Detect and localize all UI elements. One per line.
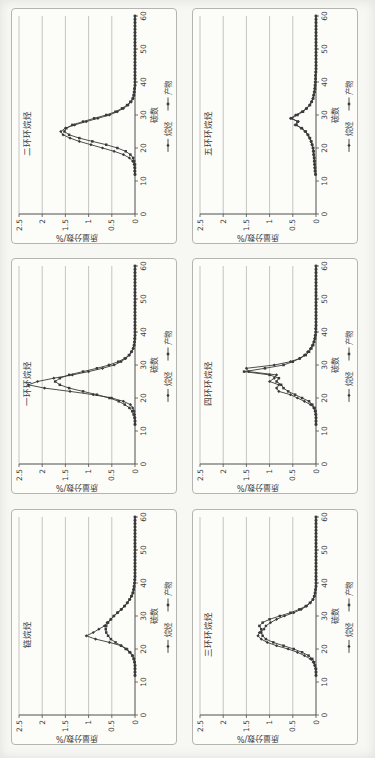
square-marker (313, 595, 316, 598)
square-marker (294, 393, 297, 396)
x-axis-title: 碳数 (149, 357, 159, 373)
square-marker (348, 604, 351, 607)
square-marker (315, 321, 318, 324)
svg-text:1: 1 (265, 219, 274, 224)
gridlines (19, 16, 112, 214)
svg-text:40: 40 (320, 578, 329, 588)
square-marker (310, 347, 313, 350)
svg-text:2.5: 2.5 (15, 469, 24, 481)
axes (19, 16, 138, 217)
square-marker (315, 278, 318, 281)
square-marker (134, 314, 137, 317)
square-marker (312, 598, 315, 601)
square-marker (78, 137, 81, 140)
square-marker (133, 661, 136, 664)
svg-text:20: 20 (320, 644, 329, 654)
square-marker (134, 337, 137, 340)
square-marker (116, 611, 119, 614)
svg-text:0.5: 0.5 (107, 720, 116, 732)
svg-text:40: 40 (320, 327, 329, 337)
square-marker (112, 615, 115, 618)
square-marker (301, 651, 304, 654)
svg-text:10: 10 (139, 176, 148, 186)
square-marker (302, 110, 305, 113)
x-axis-title: 碳数 (330, 357, 340, 373)
square-marker (133, 91, 136, 94)
square-marker (310, 140, 313, 143)
square-marker (133, 344, 136, 347)
square-marker (134, 41, 137, 44)
square-marker (134, 48, 137, 51)
square-marker (315, 539, 318, 542)
y-axis-title: 质量分数/% (55, 734, 98, 744)
square-marker (133, 582, 136, 585)
diamond-marker (166, 645, 169, 648)
square-marker (315, 54, 318, 57)
svg-text:40: 40 (139, 578, 148, 588)
square-marker (315, 275, 318, 278)
square-marker (134, 15, 137, 18)
square-marker (134, 334, 137, 337)
square-marker (315, 545, 318, 548)
square-marker (134, 25, 137, 28)
square-marker (311, 658, 314, 661)
svg-text:10: 10 (320, 426, 329, 436)
x-axis-title: 碳数 (330, 107, 340, 123)
square-marker (243, 370, 246, 373)
svg-text:60: 60 (139, 261, 148, 271)
square-marker (301, 397, 304, 400)
square-marker (120, 608, 123, 611)
svg-text:1: 1 (84, 720, 93, 725)
line-chart-svg: 010203040506000.511.522.5碳数质量分数/%三环环烷烃烷烃… (192, 509, 358, 745)
svg-text:1.5: 1.5 (61, 219, 70, 231)
line-chart-svg: 010203040506000.511.522.5碳数质量分数/%四环环烷烃烷烃… (192, 258, 358, 494)
square-marker (133, 87, 136, 90)
square-marker (134, 44, 137, 47)
square-marker (134, 549, 137, 552)
svg-text:1: 1 (265, 469, 274, 474)
square-marker (315, 265, 318, 268)
square-marker (315, 519, 318, 522)
square-marker (314, 334, 317, 337)
square-marker (265, 638, 268, 641)
diamond-marker (94, 638, 97, 641)
legend-label: 烷烃 (344, 121, 354, 136)
square-marker (314, 77, 317, 80)
square-marker (131, 654, 134, 657)
square-marker (264, 367, 267, 370)
svg-text:1: 1 (265, 720, 274, 725)
square-marker (134, 268, 137, 271)
square-marker (315, 585, 318, 588)
square-marker (134, 61, 137, 64)
square-marker (296, 120, 299, 123)
square-marker (128, 651, 131, 654)
square-marker (105, 625, 108, 628)
square-marker (134, 288, 137, 291)
y-axis-title: 质量分数/% (55, 483, 98, 493)
square-marker (312, 153, 315, 156)
svg-text:0.5: 0.5 (107, 469, 116, 481)
diamond-marker (122, 400, 125, 403)
square-marker (314, 74, 317, 77)
square-marker (134, 529, 137, 532)
square-marker (134, 565, 137, 568)
square-marker (114, 641, 117, 644)
svg-text:50: 50 (320, 44, 329, 54)
square-marker (93, 117, 96, 120)
square-marker (91, 140, 94, 143)
square-marker (315, 417, 318, 420)
rotated-line-chart: 010203040506000.511.522.5碳数质量分数/%一环环烷烃烷烃… (11, 258, 177, 494)
svg-text:0: 0 (131, 219, 140, 224)
square-marker (126, 602, 129, 605)
square-marker (134, 308, 137, 311)
square-marker (313, 160, 316, 163)
square-marker (134, 318, 137, 321)
square-marker (315, 542, 318, 545)
square-marker (63, 130, 66, 133)
square-marker (134, 572, 137, 575)
svg-text:0: 0 (320, 211, 329, 216)
square-marker (314, 588, 317, 591)
square-marker (68, 374, 71, 377)
square-marker (348, 103, 351, 106)
gridlines (19, 266, 112, 464)
